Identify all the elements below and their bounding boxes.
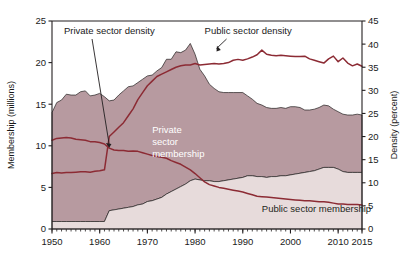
y-tick-label-right-0: 0 xyxy=(368,223,373,234)
x-tick-label-1970: 1970 xyxy=(137,236,158,247)
x-tick-label-1950: 1950 xyxy=(41,236,62,247)
private-sector-membership-label-line-1: Private xyxy=(152,124,182,135)
y-tick-label-right-35: 35 xyxy=(368,62,379,73)
y-tick-label-right-10: 10 xyxy=(368,177,379,188)
y-tick-label-right-20: 20 xyxy=(368,131,379,142)
union-membership-density-chart: 0510152025051015202530354045195019601970… xyxy=(0,0,409,261)
public-sector-membership-label: Public sector membership xyxy=(262,203,371,214)
y-axis-title-right: Density (percent) xyxy=(389,91,399,160)
public-sector-density-callout-label: Public sector density xyxy=(205,25,292,36)
y-tick-label-left-0: 0 xyxy=(41,223,46,234)
private-sector-membership-label-line-3: membership xyxy=(152,148,204,159)
x-tick-label-1980: 1980 xyxy=(185,236,206,247)
y-tick-label-left-15: 15 xyxy=(35,99,46,110)
x-tick-label-2000: 2000 xyxy=(280,236,301,247)
y-tick-label-left-25: 25 xyxy=(35,15,46,26)
x-tick-label-2015: 2015 xyxy=(351,236,372,247)
y-axis-title-left: Membership (millions) xyxy=(6,81,16,169)
y-tick-label-right-45: 45 xyxy=(368,15,379,26)
private-sector-density-callout-label: Private sector density xyxy=(64,25,155,36)
chart-canvas: 0510152025051015202530354045195019601970… xyxy=(0,0,409,261)
y-tick-label-right-30: 30 xyxy=(368,85,379,96)
y-tick-label-left-20: 20 xyxy=(35,57,46,68)
private-sector-membership-label-line-2: sector xyxy=(152,136,178,147)
y-tick-label-right-40: 40 xyxy=(368,39,379,50)
y-tick-label-left-5: 5 xyxy=(41,182,46,193)
x-tick-label-1960: 1960 xyxy=(89,236,110,247)
x-tick-label-1990: 1990 xyxy=(232,236,253,247)
y-tick-label-right-25: 25 xyxy=(368,108,379,119)
x-tick-label-2010: 2010 xyxy=(328,236,349,247)
y-tick-label-left-10: 10 xyxy=(35,140,46,151)
y-tick-label-right-15: 15 xyxy=(368,154,379,165)
